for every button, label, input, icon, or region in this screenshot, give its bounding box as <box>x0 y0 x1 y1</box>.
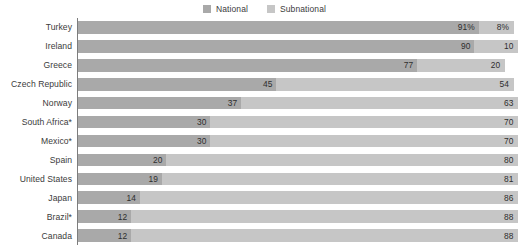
bar-segment-national[interactable]: 12 <box>78 229 131 242</box>
bar-value-national: 90 <box>461 41 470 51</box>
bar-segment-national[interactable]: 37 <box>78 97 241 110</box>
bar-row: Ireland9010 <box>0 37 529 56</box>
bar-value-national: 12 <box>118 231 127 241</box>
category-label: Turkey <box>0 18 72 37</box>
legend-swatch-icon <box>203 5 211 13</box>
bar-value-national: 14 <box>127 193 136 203</box>
bar-segment-national[interactable]: 19 <box>78 173 162 186</box>
bar-segment-national[interactable]: 30 <box>78 135 210 148</box>
bar-row: United States1981 <box>0 169 529 188</box>
category-label: Brazil* <box>0 207 72 226</box>
category-label: Mexico* <box>0 132 72 151</box>
bar-value-national: 77 <box>404 60 413 70</box>
bar-segment-subnational[interactable]: 54 <box>276 78 514 91</box>
legend-swatch-icon <box>267 5 275 13</box>
category-label: Greece <box>0 56 72 75</box>
bar-segment-subnational[interactable]: 86 <box>140 191 518 204</box>
stacked-bar: 9010 <box>78 40 518 53</box>
bar-segment-subnational[interactable]: 8% <box>479 21 514 34</box>
category-label: Canada <box>0 226 72 245</box>
bar-value-national: 45 <box>263 79 272 89</box>
bar-segment-subnational[interactable]: 63 <box>241 97 518 110</box>
bar-segment-national[interactable]: 30 <box>78 116 210 129</box>
bar-segment-subnational[interactable]: 80 <box>166 154 518 167</box>
bar-row: Spain2080 <box>0 150 529 169</box>
bar-row: Greece7720 <box>0 56 529 75</box>
category-label: United States <box>0 169 72 188</box>
bar-segment-national[interactable]: 91% <box>78 21 478 34</box>
bar-segment-national[interactable]: 77 <box>78 59 417 72</box>
bar-value-subnational: 8% <box>497 22 509 32</box>
bar-segment-national[interactable]: 12 <box>78 210 131 223</box>
legend-item-national[interactable]: National <box>203 4 248 14</box>
stacked-bar: 3070 <box>78 135 518 148</box>
category-label: Spain <box>0 150 72 169</box>
bar-row: Mexico*3070 <box>0 132 529 151</box>
bar-value-subnational: 88 <box>504 212 513 222</box>
bar-value-national: 20 <box>153 155 162 165</box>
stacked-bar-chart: National Subnational Turkey91%8%Ireland9… <box>0 0 529 245</box>
plot-area: Turkey91%8%Ireland9010Greece7720Czech Re… <box>0 18 529 245</box>
stacked-bar: 1981 <box>78 173 518 186</box>
stacked-bar: 1486 <box>78 191 518 204</box>
bar-segment-subnational[interactable]: 70 <box>210 116 518 129</box>
legend-label-national: National <box>216 4 248 14</box>
bar-segment-subnational[interactable]: 10 <box>474 40 518 53</box>
bar-value-subnational: 70 <box>504 136 513 146</box>
bar-segment-national[interactable]: 45 <box>78 78 276 91</box>
category-label: South Africa* <box>0 113 72 132</box>
stacked-bar: 1288 <box>78 229 518 242</box>
category-label: Japan <box>0 188 72 207</box>
bar-value-national: 37 <box>228 98 237 108</box>
bar-segment-subnational[interactable]: 88 <box>131 229 518 242</box>
bar-value-national: 30 <box>197 117 206 127</box>
bar-segment-national[interactable]: 14 <box>78 191 140 204</box>
category-label: Norway <box>0 94 72 113</box>
bar-row: Japan1486 <box>0 188 529 207</box>
stacked-bar: 7720 <box>78 59 518 72</box>
bar-value-national: 30 <box>197 136 206 146</box>
bar-row: Norway3763 <box>0 94 529 113</box>
bar-value-subnational: 54 <box>500 79 509 89</box>
bar-segment-subnational[interactable]: 88 <box>131 210 518 223</box>
bar-value-subnational: 20 <box>491 60 500 70</box>
bar-segment-subnational[interactable]: 20 <box>417 59 505 72</box>
bar-value-subnational: 80 <box>504 155 513 165</box>
bar-row: Canada1288 <box>0 226 529 245</box>
chart-legend: National Subnational <box>0 2 529 16</box>
bar-row: Turkey91%8% <box>0 18 529 37</box>
legend-item-subnational[interactable]: Subnational <box>267 4 326 14</box>
bar-value-subnational: 86 <box>504 193 513 203</box>
stacked-bar: 2080 <box>78 154 518 167</box>
category-label: Czech Republic <box>0 75 72 94</box>
bar-row: Czech Republic4554 <box>0 75 529 94</box>
stacked-bar: 3763 <box>78 97 518 110</box>
stacked-bar: 1288 <box>78 210 518 223</box>
bar-value-national: 19 <box>149 174 158 184</box>
stacked-bar: 91%8% <box>78 21 518 34</box>
bar-value-subnational: 70 <box>504 117 513 127</box>
bar-segment-national[interactable]: 20 <box>78 154 166 167</box>
stacked-bar: 3070 <box>78 116 518 129</box>
bar-value-subnational: 10 <box>504 41 513 51</box>
bar-row: South Africa*3070 <box>0 113 529 132</box>
bar-row: Brazil*1288 <box>0 207 529 226</box>
bar-value-national: 12 <box>118 212 127 222</box>
stacked-bar: 4554 <box>78 78 518 91</box>
bar-value-national: 91% <box>458 22 475 32</box>
bar-value-subnational: 81 <box>504 174 513 184</box>
bar-value-subnational: 63 <box>504 98 513 108</box>
bar-segment-national[interactable]: 90 <box>78 40 474 53</box>
bar-segment-subnational[interactable]: 70 <box>210 135 518 148</box>
legend-label-subnational: Subnational <box>280 4 326 14</box>
bar-value-subnational: 88 <box>504 231 513 241</box>
bar-segment-subnational[interactable]: 81 <box>162 173 518 186</box>
category-label: Ireland <box>0 37 72 56</box>
